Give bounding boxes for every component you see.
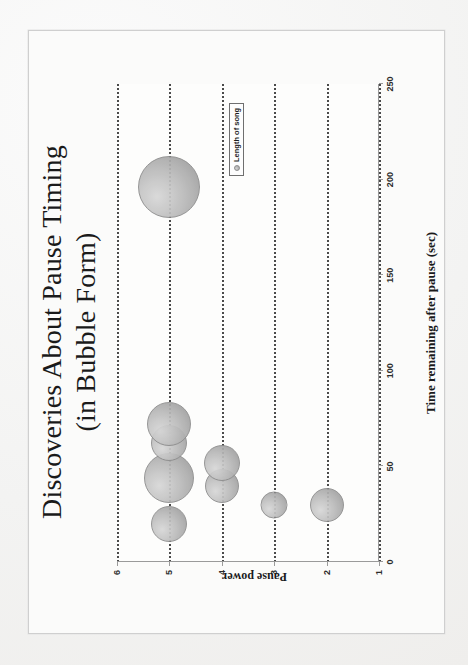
bubble-point[interactable]: [151, 506, 187, 542]
y-tick-label-5: 5: [164, 570, 174, 575]
gridline-y-6: [117, 84, 119, 562]
bubble-marker-icon: [233, 165, 239, 171]
y-tick-3: [274, 562, 275, 566]
x-tick-100: [379, 370, 383, 371]
x-tick-label-50: 50: [385, 461, 395, 471]
x-axis-title: Time remaining after pause (sec): [423, 84, 439, 562]
x-tick-label-200: 200: [385, 172, 395, 187]
y-tick-1: [379, 562, 380, 566]
slide-canvas: Discoveries About Pause Timing (in Bubbl…: [31, 32, 443, 632]
bubble-point[interactable]: [147, 402, 191, 446]
y-tick-label-2: 2: [321, 570, 331, 575]
y-tick-2: [326, 562, 327, 566]
x-tick-250: [379, 83, 383, 84]
x-axis-line: [378, 84, 379, 562]
x-tick-label-0: 0: [385, 559, 395, 564]
y-axis-title: Pause power: [222, 569, 287, 584]
bubble-point[interactable]: [260, 491, 287, 518]
page-title: Discoveries About Pause Timing (in Bubbl…: [35, 32, 103, 632]
x-tick-label-150: 150: [385, 268, 395, 283]
y-tick-6: [117, 562, 118, 566]
y-axis-line: [117, 561, 379, 562]
legend-label: Length of song: [232, 108, 241, 162]
x-tick-label-250: 250: [385, 76, 395, 91]
title-line-2: (in Bubble Form): [69, 32, 103, 632]
slide-frame: Discoveries About Pause Timing (in Bubbl…: [28, 30, 445, 634]
bubble-point[interactable]: [138, 156, 200, 218]
x-tick-label-100: 100: [385, 363, 395, 378]
x-tick-200: [379, 179, 383, 180]
y-tick-5: [169, 562, 170, 566]
x-tick-50: [379, 465, 383, 466]
y-tick-label-1: 1: [374, 570, 384, 575]
y-tick-4: [221, 562, 222, 566]
bubble-point[interactable]: [203, 445, 239, 481]
y-tick-label-6: 6: [112, 570, 122, 575]
chart-legend[interactable]: Length of song: [229, 103, 244, 176]
x-tick-150: [379, 274, 383, 275]
title-line-1: Discoveries About Pause Timing: [35, 32, 69, 632]
bubble-point[interactable]: [309, 488, 343, 522]
bubble-chart-plot-area: 050100150200250 123456 Length of song Pa…: [117, 84, 379, 562]
